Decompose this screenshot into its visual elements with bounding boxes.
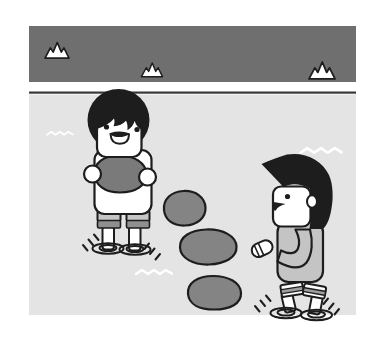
- left-child-right-hand: [139, 169, 156, 186]
- stepping-stone-1: [164, 191, 206, 226]
- right-child-front-cuff: [280, 282, 304, 297]
- shoreline-divider: [29, 92, 356, 94]
- left-child-left-eye: [104, 124, 109, 129]
- illustration-canvas: [0, 0, 383, 344]
- right-child-back-cuff: [303, 283, 327, 299]
- riverbank-band: [29, 26, 356, 82]
- right-child-ear: [307, 195, 317, 207]
- left-child-left-hand: [84, 166, 101, 183]
- riverbank: [29, 26, 356, 82]
- stepping-stone-3: [188, 276, 241, 310]
- left-child-right-eye: [134, 127, 139, 132]
- shorts-left-stripe: [98, 221, 121, 229]
- stepping-stone-2: [180, 229, 237, 264]
- shorts-right-stripe: [127, 221, 150, 229]
- left-child-mouth: [111, 133, 130, 144]
- right-child-eye: [285, 194, 290, 199]
